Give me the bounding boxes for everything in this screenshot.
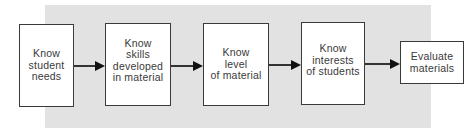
node-know-interests-of-students: Know interests of students [301, 22, 365, 105]
node-evaluate-materials: Evaluate materials [400, 41, 464, 84]
arrow-2-to-3 [171, 61, 203, 71]
arrow-1-to-2 [74, 61, 105, 71]
arrowhead-icon [193, 61, 203, 71]
arrow-4-to-5 [365, 59, 400, 69]
arrow-shaft [365, 63, 391, 65]
node-label: Know skills developed in material [113, 38, 164, 84]
node-label: Know level of material [210, 47, 261, 82]
arrow-shaft [171, 65, 194, 67]
node-label: Evaluate materials [410, 51, 454, 74]
node-label: Know student needs [29, 48, 65, 83]
node-know-student-needs: Know student needs [19, 24, 74, 107]
arrow-3-to-4 [269, 60, 301, 70]
arrow-shaft [269, 64, 292, 66]
arrowhead-icon [95, 61, 105, 71]
node-know-skills-developed: Know skills developed in material [105, 23, 171, 106]
arrowhead-icon [390, 59, 400, 69]
node-label: Know interests of students [306, 43, 360, 78]
arrowhead-icon [291, 60, 301, 70]
node-know-level-of-material: Know level of material [203, 23, 269, 106]
arrow-shaft [74, 65, 96, 67]
